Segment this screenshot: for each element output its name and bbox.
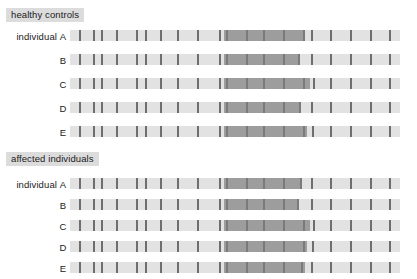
marker-tick — [330, 54, 332, 65]
marker-tick — [116, 220, 118, 231]
marker-tick — [246, 178, 248, 189]
marker-tick — [101, 126, 103, 137]
marker-tick — [350, 220, 352, 231]
marker-tick — [350, 178, 352, 189]
marker-tick — [197, 241, 199, 252]
marker-tick — [303, 241, 305, 252]
marker-tick — [136, 30, 138, 41]
marker-tick — [226, 54, 228, 65]
marker-tick — [160, 241, 162, 252]
marker-tick — [197, 78, 199, 89]
marker-tick — [303, 78, 305, 89]
marker-tick — [370, 262, 372, 273]
marker-tick — [145, 220, 147, 231]
marker-tick — [101, 178, 103, 189]
marker-tick — [389, 30, 391, 41]
marker-tick — [145, 78, 147, 89]
marker-tick — [136, 126, 138, 137]
row-label-affected-individuals-E: E — [58, 263, 68, 274]
marker-tick — [101, 54, 103, 65]
marker-tick — [370, 220, 372, 231]
marker-tick — [389, 178, 391, 189]
marker-tick — [116, 54, 118, 65]
marker-tick — [101, 30, 103, 41]
marker-tick — [389, 126, 391, 137]
marker-tick — [263, 241, 265, 252]
marker-tick — [226, 30, 228, 41]
marker-tick — [283, 126, 285, 137]
marker-tick — [370, 178, 372, 189]
marker-tick — [263, 220, 265, 231]
marker-tick — [246, 54, 248, 65]
row-label-individual-prefix: individual — [5, 31, 57, 42]
marker-tick — [263, 126, 265, 137]
marker-tick — [350, 54, 352, 65]
marker-tick — [389, 199, 391, 210]
marker-tick — [101, 241, 103, 252]
marker-tick — [79, 30, 81, 41]
marker-tick — [177, 199, 179, 210]
row-label-healthy-controls-C: C — [58, 79, 68, 90]
marker-tick — [389, 102, 391, 113]
marker-tick — [350, 30, 352, 41]
marker-tick — [219, 30, 221, 41]
marker-tick — [177, 102, 179, 113]
marker-tick — [263, 178, 265, 189]
marker-tick — [312, 126, 314, 137]
marker-tick — [300, 178, 302, 189]
marker-tick — [330, 262, 332, 273]
row-label-healthy-controls-E: E — [58, 127, 68, 138]
marker-tick — [297, 199, 299, 210]
marker-tick — [93, 220, 95, 231]
marker-tick — [79, 54, 81, 65]
chromosome-bar — [70, 78, 400, 89]
marker-tick — [79, 241, 81, 252]
marker-tick — [116, 78, 118, 89]
marker-tick — [136, 54, 138, 65]
section-header-healthy-controls: healthy controls — [6, 8, 84, 22]
marker-tick — [226, 241, 228, 252]
marker-tick — [160, 126, 162, 137]
marker-tick — [350, 102, 352, 113]
marker-tick — [301, 262, 303, 273]
row-label-individual-prefix: individual — [5, 179, 57, 190]
marker-tick — [136, 262, 138, 273]
marker-tick — [177, 126, 179, 137]
marker-tick — [370, 199, 372, 210]
marker-tick — [330, 102, 332, 113]
marker-tick — [116, 199, 118, 210]
marker-tick — [93, 262, 95, 273]
marker-tick — [219, 220, 221, 231]
marker-tick — [303, 126, 305, 137]
marker-tick — [311, 178, 313, 189]
marker-tick — [370, 241, 372, 252]
marker-tick — [370, 30, 372, 41]
marker-tick — [79, 78, 81, 89]
marker-tick — [197, 30, 199, 41]
marker-tick — [145, 30, 147, 41]
haplotype-figure: healthy controlsindividualABCDEaffected … — [0, 0, 417, 279]
marker-tick — [160, 102, 162, 113]
marker-tick — [219, 126, 221, 137]
marker-tick — [226, 178, 228, 189]
marker-tick — [263, 54, 265, 65]
chromosome-bar — [70, 178, 400, 189]
marker-tick — [197, 220, 199, 231]
shared-haplotype-block — [224, 199, 299, 210]
marker-tick — [160, 54, 162, 65]
marker-tick — [389, 262, 391, 273]
marker-tick — [116, 241, 118, 252]
marker-tick — [116, 102, 118, 113]
marker-tick — [246, 199, 248, 210]
marker-tick — [370, 78, 372, 89]
marker-tick — [177, 78, 179, 89]
marker-tick — [298, 54, 300, 65]
marker-tick — [145, 54, 147, 65]
marker-tick — [311, 54, 313, 65]
marker-tick — [370, 126, 372, 137]
marker-tick — [116, 178, 118, 189]
marker-tick — [93, 30, 95, 41]
marker-tick — [197, 54, 199, 65]
marker-tick — [330, 199, 332, 210]
marker-tick — [246, 102, 248, 113]
